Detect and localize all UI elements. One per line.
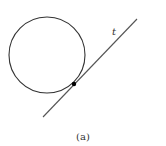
tangent-point — [72, 82, 76, 86]
tangent-line-diagram: t (a) — [0, 0, 166, 146]
circle — [9, 17, 85, 93]
line-label-t: t — [112, 26, 117, 37]
tangent-line-t — [43, 19, 137, 117]
figure-caption: (a) — [76, 131, 90, 142]
